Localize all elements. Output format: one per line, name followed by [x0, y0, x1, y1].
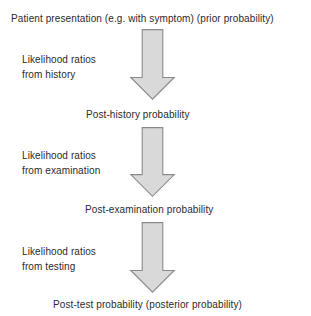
down-arrow-icon-examination: [130, 127, 175, 197]
note-examination-line-2: from examination: [22, 163, 100, 178]
stage-label-post-history: Post-history probability: [86, 108, 190, 121]
down-arrow-icon-history: [130, 29, 175, 100]
stage-label-posterior: Post-test probability (posterior probabi…: [53, 298, 242, 311]
stage-label-prior: Patient presentation (e.g. with symptom)…: [11, 12, 274, 25]
note-likelihood-ratios-examination: Likelihood ratios from examination: [22, 148, 100, 178]
note-history-line-2: from history: [22, 67, 96, 82]
flow-diagram: Patient presentation (e.g. with symptom)…: [0, 0, 311, 316]
down-arrow-icon-testing: [130, 222, 175, 293]
note-likelihood-ratios-history: Likelihood ratios from history: [22, 52, 96, 82]
note-history-line-1: Likelihood ratios: [22, 52, 96, 67]
note-testing-line-1: Likelihood ratios: [22, 244, 96, 259]
stage-label-post-examination: Post-examination probability: [85, 203, 213, 216]
note-testing-line-2: from testing: [22, 259, 96, 274]
note-likelihood-ratios-testing: Likelihood ratios from testing: [22, 244, 96, 274]
note-examination-line-1: Likelihood ratios: [22, 148, 100, 163]
